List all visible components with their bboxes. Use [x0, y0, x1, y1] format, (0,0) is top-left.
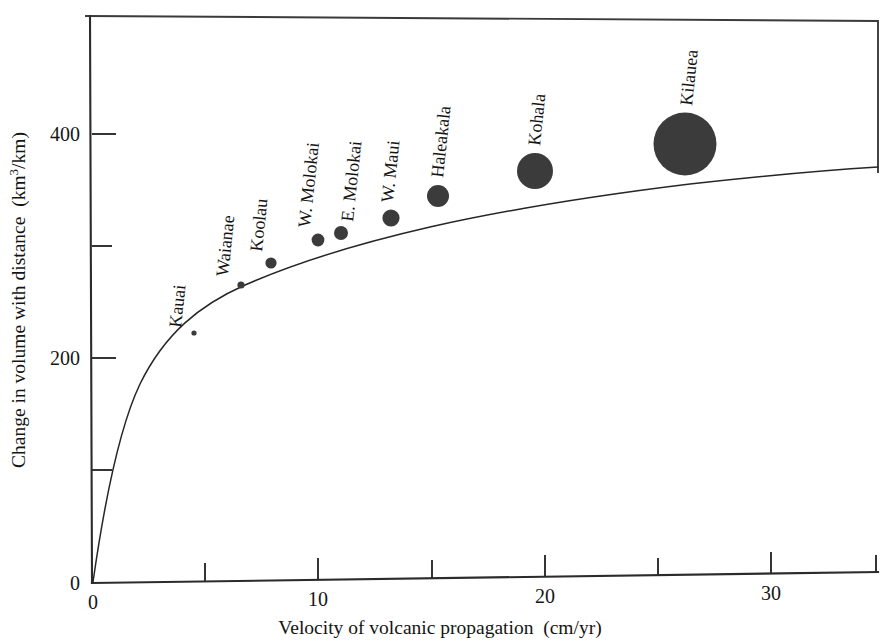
y-axis-title-units-post: /km) — [8, 132, 30, 169]
point-label-koolau: Koolau — [246, 198, 271, 253]
x-tick-label-30: 30 — [761, 582, 781, 604]
data-point-w-maui[interactable] — [382, 209, 399, 226]
point-label-waianae: Waianae — [212, 214, 238, 277]
chart-figure: 400 200 0 0 10 20 30 Kauai Waianae Koola… — [0, 0, 895, 641]
point-label-w-molokai: W. Molokai — [294, 141, 323, 228]
x-axis-title-main: Velocity of volcanic propagation — [278, 617, 533, 638]
y-axis-title: Change in volume with distance (km3/km) — [6, 132, 31, 468]
x-axis-title-units: (cm/yr) — [543, 617, 601, 639]
trend-curve — [93, 167, 878, 582]
y-axis-title-main: Change in volume with distance — [8, 217, 29, 468]
point-label-e-molokai: E. Molokai — [337, 140, 365, 223]
point-label-haleakala: Haleakala — [427, 105, 454, 179]
x-axis-title: Velocity of volcanic propagation (cm/yr) — [278, 617, 601, 639]
y-tick-label-400: 400 — [50, 123, 80, 145]
point-label-kilauea: Kilauea — [676, 49, 702, 107]
data-point-w-molokai[interactable] — [312, 234, 325, 247]
point-label-w-maui: W. Maui — [377, 139, 403, 203]
data-point-kauai[interactable] — [191, 330, 196, 335]
svg-text:Velocity of volcanic propagati: Velocity of volcanic propagation (cm/yr) — [278, 617, 601, 639]
data-point-e-molokai[interactable] — [334, 226, 348, 240]
y-tick-label-200: 200 — [50, 347, 80, 369]
data-point-kilauea[interactable] — [654, 113, 717, 176]
y-axis-line — [90, 16, 92, 583]
scatter-plot: 400 200 0 0 10 20 30 Kauai Waianae Koola… — [0, 0, 895, 641]
data-point-haleakala[interactable] — [427, 185, 449, 207]
data-points — [191, 113, 716, 336]
plot-frame — [86, 16, 878, 172]
x-tick-label-20: 20 — [535, 585, 555, 607]
x-tick-label-0: 0 — [88, 591, 98, 613]
data-point-koolau[interactable] — [265, 257, 276, 268]
y-axis-title-units-pre: (km — [8, 175, 30, 206]
point-label-kohala: Kohala — [524, 93, 549, 147]
y-axis-ticks — [92, 134, 116, 470]
y-tick-label-0: 0 — [70, 572, 80, 594]
data-point-kohala[interactable] — [517, 153, 553, 189]
x-tick-label-10: 10 — [308, 588, 328, 610]
data-point-waianae[interactable] — [237, 281, 244, 288]
svg-text:Change in volume with distance: Change in volume with distance (km3/km) — [6, 132, 31, 468]
